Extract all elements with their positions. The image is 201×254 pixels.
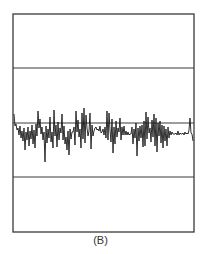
- signal-trace-figure: [0, 0, 201, 254]
- figure-label: (B): [0, 234, 201, 246]
